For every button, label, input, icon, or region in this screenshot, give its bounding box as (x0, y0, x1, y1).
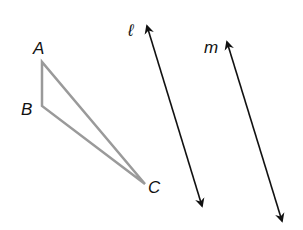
vertex-label-c: C (148, 178, 161, 197)
triangle-abc (42, 62, 145, 184)
line-label-m: m (204, 38, 218, 57)
line-label-l: ℓ (127, 21, 134, 40)
vertex-label-a: A (32, 39, 44, 58)
line-m (227, 42, 282, 221)
geometry-figure: A B C ℓ m (0, 0, 303, 230)
vertex-label-b: B (21, 100, 32, 119)
